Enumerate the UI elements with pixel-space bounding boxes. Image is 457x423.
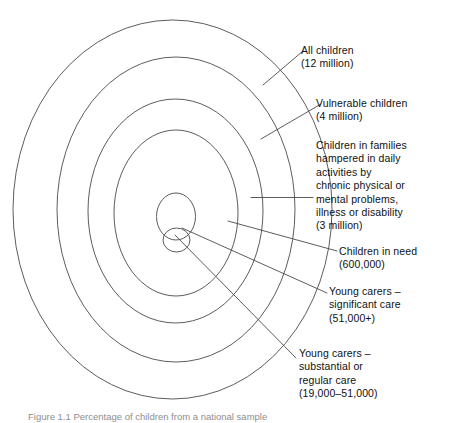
ring-label-children-in-need: Children in need (600,000) [339, 245, 457, 272]
ring-label-all-children: All children (12 million) [301, 44, 451, 71]
ring-label-young-carers-significant: Young carers – significant care (51,000+… [329, 285, 457, 325]
ring-label-young-carers-substantial: Young carers – substantial or regular ca… [299, 347, 457, 401]
leader-line-young-carers-significant [182, 228, 327, 293]
leader-line-young-carers-substantial [175, 235, 296, 358]
ring-young-carers-significant [157, 193, 196, 240]
figure-caption: Figure 1.1 Percentage of children from a… [28, 411, 448, 423]
ring-all-children [13, 20, 332, 399]
ring-label-vulnerable-children: Vulnerable children (4 million) [316, 97, 457, 124]
leader-line-all-children [263, 51, 303, 85]
ring-children-in-need [114, 130, 238, 296]
ring-vulnerable-children [57, 57, 295, 362]
leader-line-vulnerable-children [261, 104, 321, 139]
ring-label-hampered-families: Children in families hampered in daily a… [316, 139, 457, 233]
